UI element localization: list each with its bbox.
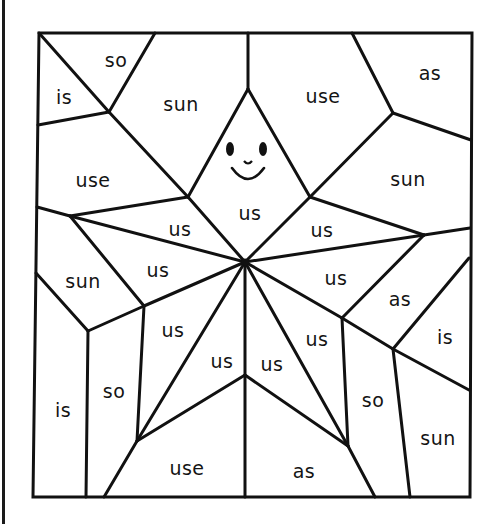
region-word-sun[interactable]: sun [65, 270, 100, 292]
nose-icon [244, 161, 252, 164]
region-word-us[interactable]: us [211, 350, 234, 372]
region-word-is[interactable]: is [55, 399, 71, 421]
smiley-face [226, 142, 267, 179]
region-word-is[interactable]: is [56, 86, 72, 108]
region-word-us[interactable]: us [311, 219, 334, 241]
region-word-as[interactable]: as [389, 288, 412, 310]
region-word-is[interactable]: is [437, 326, 453, 348]
region-word-us[interactable]: us [306, 328, 329, 350]
star-center-dot [242, 259, 249, 266]
region-word-so[interactable]: so [105, 49, 128, 71]
region-word-use[interactable]: use [75, 169, 110, 191]
region-word-sun[interactable]: sun [390, 168, 425, 190]
region-word-us[interactable]: us [162, 319, 185, 341]
region-word-as[interactable]: as [419, 62, 442, 84]
region-word-sun[interactable]: sun [163, 93, 198, 115]
region-word-use[interactable]: use [305, 85, 340, 107]
right-eye-icon [259, 142, 267, 156]
region-word-so[interactable]: so [362, 389, 385, 411]
region-word-sun[interactable]: sun [420, 427, 455, 449]
region-word-us[interactable]: us [169, 218, 192, 240]
coloring-worksheet: soissunuseasusesunususussunususasisususu… [0, 0, 494, 524]
left-eye-icon [226, 142, 234, 156]
region-word-us[interactable]: us [325, 267, 348, 289]
region-word-us[interactable]: us [239, 202, 262, 224]
region-word-us[interactable]: us [147, 259, 170, 281]
smile-mouth-icon [232, 168, 264, 179]
region-word-so[interactable]: so [103, 380, 126, 402]
region-word-us[interactable]: us [261, 353, 284, 375]
region-word-as[interactable]: as [293, 460, 316, 482]
region-word-use[interactable]: use [169, 457, 204, 479]
